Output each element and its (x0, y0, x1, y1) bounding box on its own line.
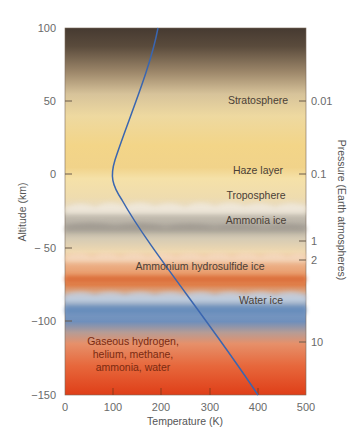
y2-axis-tick-labels: 0.01 0.1 1 2 10 (311, 95, 332, 348)
svg-text:0: 0 (62, 401, 68, 413)
svg-text:200: 200 (152, 401, 170, 413)
svg-text:0: 0 (50, 168, 56, 180)
svg-text:300: 300 (201, 401, 219, 413)
svg-text:2: 2 (311, 254, 317, 266)
label-ammonium-hydrosulfide-ice: Ammonium hydrosulfide ice (136, 260, 265, 272)
svg-text:− 50: − 50 (34, 242, 56, 254)
svg-text:100: 100 (38, 22, 56, 34)
label-water-ice: Water ice (239, 294, 283, 306)
label-gaseous-line1: Gaseous hydrogen, (87, 335, 179, 347)
jupiter-atmosphere-diagram: Stratosphere Haze layer Troposphere Ammo… (0, 0, 362, 448)
y-axis-tick-labels: 100 50 0 − 50 −100 −150 (31, 22, 56, 401)
svg-text:−100: −100 (31, 315, 56, 327)
label-troposphere: Troposphere (226, 189, 285, 201)
svg-text:10: 10 (311, 336, 323, 348)
svg-text:0.01: 0.01 (311, 95, 332, 107)
svg-text:100: 100 (104, 401, 122, 413)
label-gaseous-line3: ammonia, water (96, 361, 171, 373)
label-haze-layer: Haze layer (233, 164, 284, 176)
svg-text:−150: −150 (31, 389, 56, 401)
y-axis-title: Altitude (km) (16, 183, 28, 242)
label-ammonia-ice: Ammonia ice (226, 214, 287, 226)
svg-text:400: 400 (249, 401, 267, 413)
y2-axis-title: Pressure (Earth atmospheres) (336, 140, 348, 281)
svg-text:1: 1 (311, 235, 317, 247)
x-axis-title: Temperature (K) (147, 415, 223, 427)
svg-text:0.1: 0.1 (311, 168, 326, 180)
label-stratosphere: Stratosphere (228, 94, 288, 106)
x-axis-tick-labels: 0 100 200 300 400 500 (62, 401, 315, 413)
svg-text:500: 500 (297, 401, 315, 413)
svg-text:50: 50 (44, 95, 56, 107)
label-gaseous-line2: helium, methane, (93, 348, 174, 360)
